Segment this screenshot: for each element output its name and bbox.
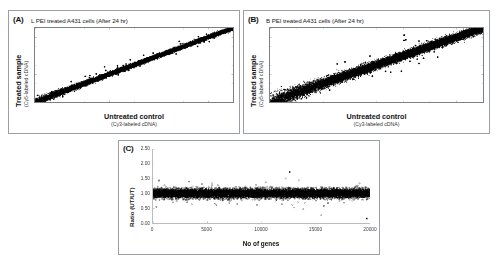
- panel-a-y-axis-label-sub: (Cy5-labeled cDNA): [23, 55, 29, 107]
- microarray-figure: (A) L PEI treated A431 cells (After 24 h…: [0, 0, 498, 259]
- panel-c-y-tick-0: 0.00: [133, 221, 150, 226]
- panel-a-tag: (A): [13, 15, 24, 24]
- panel-a-y-axis-label-main: Treated sample: [15, 55, 23, 107]
- panel-c-y-tick-4: 2.00: [133, 161, 150, 166]
- panel-a-plot-area: [34, 27, 234, 103]
- panel-c-x-tick-2: 10000: [251, 227, 271, 232]
- panel-c: (C) Ratio (UT/UT) 0.000.501.001.502.002.…: [118, 140, 380, 255]
- panel-c-x-tick-1: 5000: [197, 227, 217, 232]
- panel-c-x-tick-3: 15000: [306, 227, 326, 232]
- panel-c-x-axis-label: No of genes: [152, 240, 370, 247]
- panel-c-x-tick-4: 20000: [360, 227, 380, 232]
- panel-b-y-axis-label-main: Treated sample: [250, 55, 258, 107]
- panel-a-scatter-points: [35, 28, 233, 102]
- panel-a-x-axis-label: Untreated control: [34, 112, 234, 121]
- panel-b-scatter-points: [270, 28, 483, 102]
- panel-b: (B) B PEI treated A431 cells (After 24 h…: [243, 10, 490, 134]
- panel-c-y-tick-2: 1.00: [133, 191, 150, 196]
- panel-c-x-tick-0: 0: [142, 227, 162, 232]
- panel-c-plot-area: [152, 149, 370, 224]
- panel-b-tag: (B): [248, 15, 259, 24]
- panel-a-x-axis-label-sub: (Cy3-labeled cDNA): [34, 121, 234, 127]
- panel-c-y-tick-1: 0.50: [133, 206, 150, 211]
- panel-c-y-tick-5: 2.50: [133, 146, 150, 151]
- panel-b-x-axis-label: Untreated control: [269, 112, 484, 121]
- panel-a-title: L PEI treated A431 cells (After 24 hr): [31, 17, 128, 24]
- panel-c-y-tick-3: 1.50: [133, 176, 150, 181]
- panel-b-x-axis-label-sub: (Cy3-labeled cDNA): [269, 121, 484, 127]
- panel-a: (A) L PEI treated A431 cells (After 24 h…: [8, 10, 240, 134]
- panel-b-y-axis-label-sub: (Cy5-labeled cDNA): [258, 55, 264, 107]
- panel-b-title: B PEI treated A431 cells (After 24 hr): [266, 17, 364, 24]
- panel-c-tag: (C): [123, 144, 134, 153]
- panel-b-y-axis-label: Treated sample (Cy5-labeled cDNA): [250, 55, 264, 107]
- panel-a-y-axis-label: Treated sample (Cy5-labeled cDNA): [15, 55, 29, 107]
- panel-c-scatter-points: [153, 149, 370, 223]
- panel-b-plot-area: [269, 27, 484, 103]
